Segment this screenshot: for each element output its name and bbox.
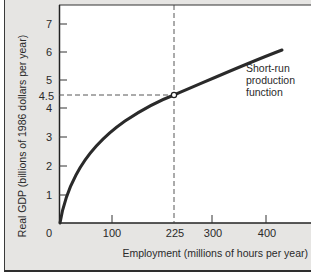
x-axis-tick-labels: 100 225 300 400 xyxy=(103,227,276,239)
svg-text:6: 6 xyxy=(46,46,52,58)
svg-text:300: 300 xyxy=(204,227,222,239)
x-axis-title: Employment (millions of hours per year) xyxy=(122,247,308,259)
svg-text:1: 1 xyxy=(46,189,52,201)
svg-text:5: 5 xyxy=(46,74,52,86)
highlight-point xyxy=(171,92,176,97)
svg-text:3: 3 xyxy=(46,131,52,143)
svg-text:7: 7 xyxy=(46,18,52,30)
production-function-chart: 7 6 5 4.5 4 3 2 1 0 100 225 300 400 Empl… xyxy=(0,0,311,278)
svg-text:function: function xyxy=(246,86,283,98)
svg-text:Short-run: Short-run xyxy=(246,62,290,74)
y-axis-tick-labels: 7 6 5 4.5 4 3 2 1 0 xyxy=(39,18,54,239)
svg-text:225: 225 xyxy=(166,227,184,239)
svg-text:4: 4 xyxy=(46,102,52,114)
plot-area xyxy=(59,5,311,223)
svg-text:0: 0 xyxy=(46,227,52,239)
svg-text:400: 400 xyxy=(258,227,276,239)
svg-text:4.5: 4.5 xyxy=(39,90,54,102)
svg-text:production: production xyxy=(246,74,295,86)
svg-text:100: 100 xyxy=(103,227,121,239)
y-axis-title: Real GDP (billions of 1986 dollars per y… xyxy=(16,35,28,237)
svg-text:2: 2 xyxy=(46,160,52,172)
